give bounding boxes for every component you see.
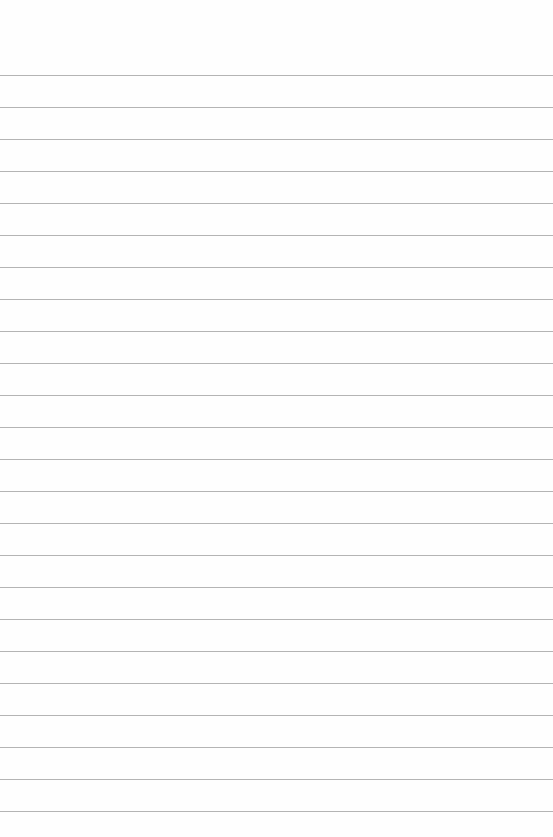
ruled-line [0, 555, 553, 556]
ruled-line [0, 619, 553, 620]
ruled-line [0, 75, 553, 76]
ruled-line [0, 299, 553, 300]
ruled-line [0, 715, 553, 716]
ruled-line [0, 811, 553, 812]
ruled-line [0, 107, 553, 108]
ruled-line [0, 267, 553, 268]
ruled-line [0, 459, 553, 460]
ruled-line [0, 779, 553, 780]
ruled-line [0, 683, 553, 684]
lined-paper-sheet [0, 0, 553, 837]
ruled-line [0, 203, 553, 204]
ruled-line [0, 587, 553, 588]
ruled-line [0, 235, 553, 236]
ruled-line [0, 523, 553, 524]
ruled-line [0, 651, 553, 652]
ruled-line [0, 747, 553, 748]
ruled-line [0, 139, 553, 140]
ruled-line [0, 395, 553, 396]
ruled-line [0, 171, 553, 172]
ruled-line [0, 331, 553, 332]
ruled-line [0, 491, 553, 492]
ruled-line [0, 363, 553, 364]
ruled-line [0, 427, 553, 428]
